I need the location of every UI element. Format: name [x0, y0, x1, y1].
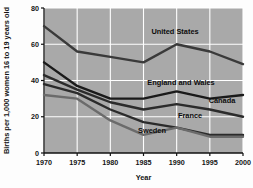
chart-container: 0204060801970197519801985199019952000Yea… [0, 0, 253, 188]
x-axis-tick-label: 1985 [136, 158, 152, 167]
series-label-canada: Canada [209, 96, 237, 105]
x-axis-tick-label: 1970 [36, 158, 52, 167]
y-axis-tick-label: 60 [31, 40, 39, 49]
y-axis-title: Births per 1,000 women 16 to 19 years ol… [2, 6, 11, 154]
x-axis-tick-label: 1975 [69, 158, 85, 167]
series-label-england-and-wales: England and Wales [147, 78, 214, 87]
x-axis-title: Year [136, 173, 152, 182]
x-axis-tick-label: 2000 [235, 158, 251, 167]
series-label-united-states: United States [151, 27, 198, 36]
x-axis-tick-label: 1990 [169, 158, 185, 167]
line-chart: 0204060801970197519801985199019952000Yea… [0, 0, 253, 188]
x-axis-tick-label: 1980 [102, 158, 118, 167]
y-axis-tick-label: 80 [31, 4, 39, 13]
y-axis-tick-label: 20 [31, 112, 39, 121]
y-axis-tick-label: 40 [31, 76, 39, 85]
series-label-sweden: Sweden [138, 126, 166, 135]
y-axis-tick-label: 0 [35, 149, 39, 158]
x-axis-tick-label: 1995 [202, 158, 218, 167]
series-label-france: France [178, 111, 202, 120]
